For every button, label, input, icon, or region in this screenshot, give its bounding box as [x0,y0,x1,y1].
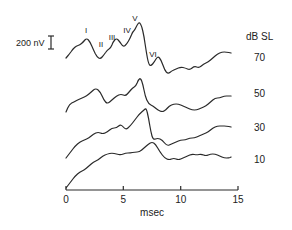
scale-bar-label: 200 nV [16,38,45,48]
x-tick-label-15: 15 [232,194,244,205]
x-tick-label-10: 10 [175,194,187,205]
x-axis: 0 5 10 15 msec [63,186,244,218]
level-legend: dB SL 70 50 30 10 [246,31,274,165]
level-label-10: 10 [254,154,266,165]
peak-label-iii: III [109,33,116,42]
peak-label-iv: IV [123,26,131,35]
level-label-50: 50 [254,88,266,99]
waveform-traces [66,23,231,188]
legend-title: dB SL [246,31,274,42]
trace-50-db [66,79,231,112]
trace-70-db [66,23,231,73]
x-tick-label-5: 5 [121,194,127,205]
level-label-30: 30 [254,122,266,133]
peak-label-ii: II [99,40,103,49]
trace-30-db [66,109,231,158]
level-label-70: 70 [254,52,266,63]
x-tick-label-0: 0 [63,194,69,205]
peak-label-v: V [132,14,138,23]
trace-10-db [66,143,231,189]
abr-waveform-chart: 200 nV I II III IV V VI dB SL 70 50 30 1… [0,0,292,230]
x-axis-label: msec [140,207,164,218]
peak-label-i: I [85,26,87,35]
scale-bar: 200 nV [16,36,54,49]
peak-label-vi: VI [149,50,157,59]
